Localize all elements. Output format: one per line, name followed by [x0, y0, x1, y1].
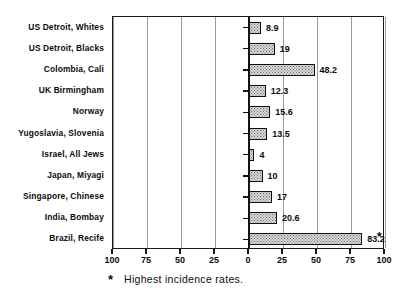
x-axis-tick	[213, 249, 214, 254]
category-label: US Detroit, Whites	[0, 22, 104, 32]
category-label-column: US Detroit, WhitesUS Detroit, BlacksColo…	[0, 10, 104, 260]
x-axis-tick	[349, 249, 350, 254]
bar-value-label: 20.6	[282, 212, 300, 224]
x-axis-tick-label: 100	[376, 255, 391, 266]
footnote-text: Highest incidence rates.	[124, 273, 243, 286]
plot-frame: 8.91948.212.315.613.54101720.683.2*	[112, 16, 384, 249]
bar	[249, 43, 275, 55]
x-axis-tick-label: 75	[345, 255, 355, 266]
bar	[249, 212, 277, 224]
bar-value-label: 19	[280, 43, 290, 55]
category-label: Yugoslavia, Slovenia	[0, 128, 104, 138]
bar-value-label: 10	[268, 170, 278, 182]
bars-layer: 8.91948.212.315.613.54101720.683.2*	[113, 17, 383, 248]
category-label: Colombia, Cali	[0, 64, 104, 74]
highest-rate-asterisk-icon: *	[377, 231, 382, 243]
x-axis-tick	[111, 249, 112, 254]
bar-value-label: 17	[277, 191, 287, 203]
bar-value-label: 12.3	[271, 85, 289, 97]
bar	[249, 149, 254, 161]
category-label: Brazil, Recife	[0, 233, 104, 243]
bar	[249, 233, 362, 245]
bar-value-label: 8.9	[266, 22, 279, 34]
category-label: India, Bombay	[0, 212, 104, 222]
x-axis-tick	[247, 249, 248, 254]
x-axis-tick	[281, 249, 282, 254]
bar	[249, 106, 270, 118]
category-label: Norway	[0, 106, 104, 116]
x-axis-tick-label: 100	[104, 255, 119, 266]
category-label: UK Birmingham	[0, 85, 104, 95]
x-axis-tick	[145, 249, 146, 254]
gridline	[385, 17, 386, 248]
bar	[249, 85, 266, 97]
x-axis-tick-label: 50	[175, 255, 185, 266]
x-axis-tick-label: 25	[277, 255, 287, 266]
x-axis: 1007550250255075100	[112, 249, 384, 271]
bar	[249, 170, 263, 182]
bar-value-label: 15.6	[275, 106, 293, 118]
x-axis-tick-label: 25	[209, 255, 219, 266]
category-label: Japan, Miyagi	[0, 170, 104, 180]
bar-value-label: 48.2	[320, 64, 338, 76]
asterisk-icon: *	[108, 273, 113, 286]
x-axis-tick	[315, 249, 316, 254]
category-label: Israel, All Jews	[0, 149, 104, 159]
x-axis-tick-label: 0	[245, 255, 250, 266]
category-label: Singapore, Chinese	[0, 191, 104, 201]
bar-value-label: 4	[259, 149, 264, 161]
category-label: US Detroit, Blacks	[0, 43, 104, 53]
x-axis-tick-label: 75	[141, 255, 151, 266]
x-axis-tick	[383, 249, 384, 254]
bar	[249, 22, 261, 34]
bar-value-label: 83.2	[367, 233, 385, 245]
bar	[249, 128, 267, 140]
x-axis-tick-label: 50	[311, 255, 321, 266]
bar-value-label: 13.5	[272, 128, 290, 140]
bar	[249, 64, 315, 76]
x-axis-tick	[179, 249, 180, 254]
bar-chart-figure: US Detroit, WhitesUS Detroit, BlacksColo…	[0, 0, 394, 293]
bar	[249, 191, 272, 203]
footnote: * Highest incidence rates.	[108, 270, 243, 288]
